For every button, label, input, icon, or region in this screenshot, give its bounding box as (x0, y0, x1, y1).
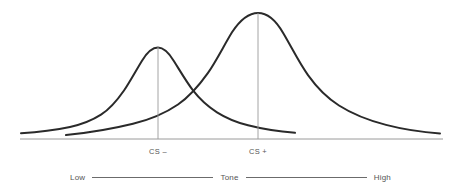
generalization-gradient-figure: CS – CS + Low Tone High (0, 0, 461, 196)
curve-cs-plus (66, 13, 440, 135)
axis-tick-label-cs-plus: CS + (249, 147, 267, 156)
axis-legend-rule-right (246, 177, 367, 178)
axis-legend-rule-left (92, 177, 213, 178)
axis-legend-label-high: High (374, 173, 391, 182)
axis-legend-label-tone: Tone (220, 173, 238, 182)
plot-canvas (0, 0, 461, 196)
axis-tick-label-cs-minus: CS – (149, 147, 167, 156)
axis-legend-label-low: Low (70, 173, 85, 182)
axis-legend: Low Tone High (0, 169, 461, 185)
